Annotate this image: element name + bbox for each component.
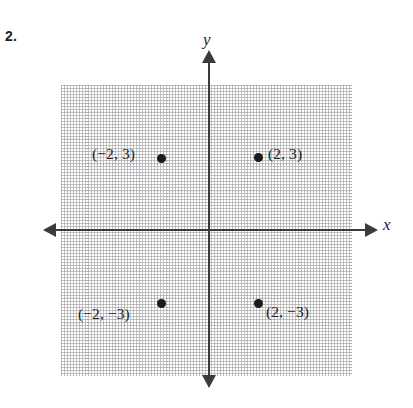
y-axis-label: y <box>203 30 211 50</box>
y-axis <box>208 53 210 378</box>
grid-line-horizontal <box>61 191 352 192</box>
data-point-label: (2, 3) <box>268 145 302 163</box>
data-point <box>254 299 263 308</box>
x-axis-arrow-right-icon <box>365 223 378 237</box>
data-point <box>157 299 166 308</box>
x-axis <box>46 229 368 231</box>
y-axis-arrow-up-icon <box>202 50 216 63</box>
grid-line-horizontal <box>61 111 352 112</box>
grid-line-horizontal <box>61 297 352 298</box>
data-point-label: (−2, −3) <box>78 305 130 323</box>
coordinate-plane-figure: 2. y x (−2, 3) (2, 3) (−2, <box>0 0 413 408</box>
grid-line-horizontal <box>61 164 352 165</box>
x-axis-arrow-left-icon <box>43 223 56 237</box>
y-axis-arrow-down-icon <box>202 375 216 388</box>
grid-line-horizontal <box>61 323 352 324</box>
data-point-label: (−2, 3) <box>92 145 135 163</box>
data-point <box>157 154 166 163</box>
grid-line-horizontal <box>61 270 352 271</box>
grid-line-horizontal <box>61 217 352 218</box>
data-point-label: (2, −3) <box>266 303 309 321</box>
x-axis-label: x <box>383 215 391 235</box>
grid-line-horizontal <box>61 349 352 350</box>
problem-number: 2. <box>5 28 17 44</box>
grid-line-horizontal <box>61 138 352 139</box>
grid-line-horizontal <box>61 244 352 245</box>
data-point <box>254 153 263 162</box>
grid-line-horizontal <box>61 85 352 86</box>
